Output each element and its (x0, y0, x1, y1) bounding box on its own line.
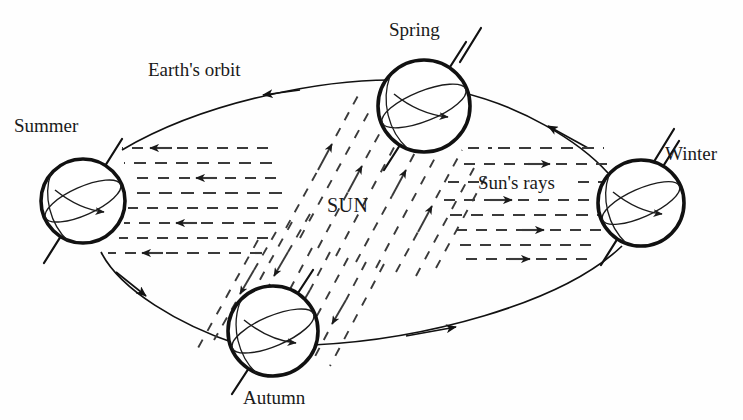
ray-dash-line (416, 168, 474, 276)
ray-dash-line (346, 262, 366, 300)
ray-dash-line (300, 110, 370, 238)
label-sun: SUN (327, 194, 369, 216)
orbit-arrow-lower-right (406, 327, 456, 336)
ray-arrow (348, 166, 362, 192)
ray-group-left (108, 148, 282, 253)
seasons-diagram: Earth's orbit Summer Spring Winter Autum… (0, 0, 743, 420)
ray-dash-line (396, 232, 418, 272)
earth-summer-globe (41, 159, 125, 243)
orbit-arc-upper-left (122, 80, 390, 150)
ray-dash-line (286, 170, 318, 228)
label-winter: Winter (665, 143, 718, 164)
earth-summer[interactable] (40, 139, 126, 263)
earth-spring[interactable] (377, 42, 472, 170)
orbit-arrow-upper-right (548, 126, 588, 148)
ray-arrow (418, 206, 432, 232)
orbit-arrow-upper-left (263, 90, 300, 95)
ray-arrow (332, 300, 346, 324)
earth-winter-globe (598, 160, 684, 246)
label-suns-rays: Sun's rays (478, 172, 555, 193)
orbit-arc-lower-right (313, 246, 622, 345)
label-earths-orbit: Earth's orbit (148, 59, 241, 80)
label-spring: Spring (389, 19, 440, 40)
earth-autumn-globe (228, 286, 318, 376)
ray-dash-line (288, 214, 310, 252)
label-summer: Summer (14, 115, 79, 136)
ray-arrow (392, 170, 406, 196)
ray-arrow (274, 252, 288, 276)
orbit-arrow-lower-left (116, 272, 146, 296)
label-autumn: Autumn (243, 387, 306, 408)
orbit-arc-lower-left (101, 252, 237, 344)
earth-autumn[interactable] (227, 270, 320, 394)
orbit-arc-upper-right (460, 92, 608, 173)
ray-dash-line (336, 92, 360, 136)
ray-dash-line (436, 150, 462, 198)
earth-spring-globe (378, 60, 470, 152)
label-leader-lines (460, 28, 674, 160)
ray-dash-line (376, 156, 436, 268)
ray-arrow (318, 144, 332, 170)
diagram-canvas: Earth's orbit Summer Spring Winter Autum… (0, 0, 743, 420)
ray-group-right (444, 148, 608, 259)
